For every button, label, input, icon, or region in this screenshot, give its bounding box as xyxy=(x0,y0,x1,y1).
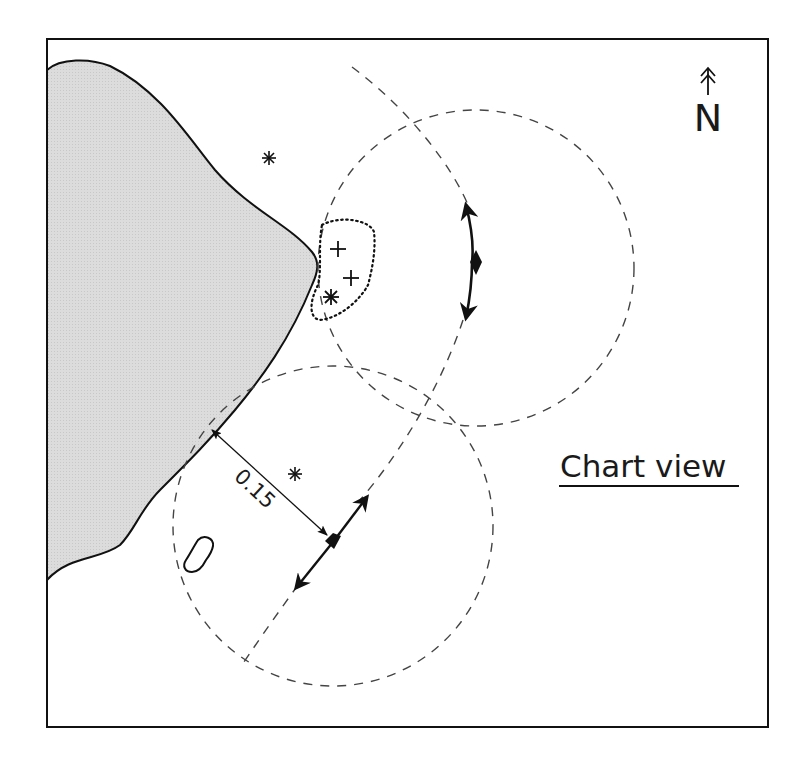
north-label: N xyxy=(694,96,722,140)
chart-view-title: Chart view xyxy=(560,448,726,484)
asterisk-icon xyxy=(262,151,276,165)
asterisk-icon xyxy=(323,289,339,305)
asterisk-icon xyxy=(288,467,302,481)
chart-diagram: 0.15 N Chart view xyxy=(0,0,811,767)
